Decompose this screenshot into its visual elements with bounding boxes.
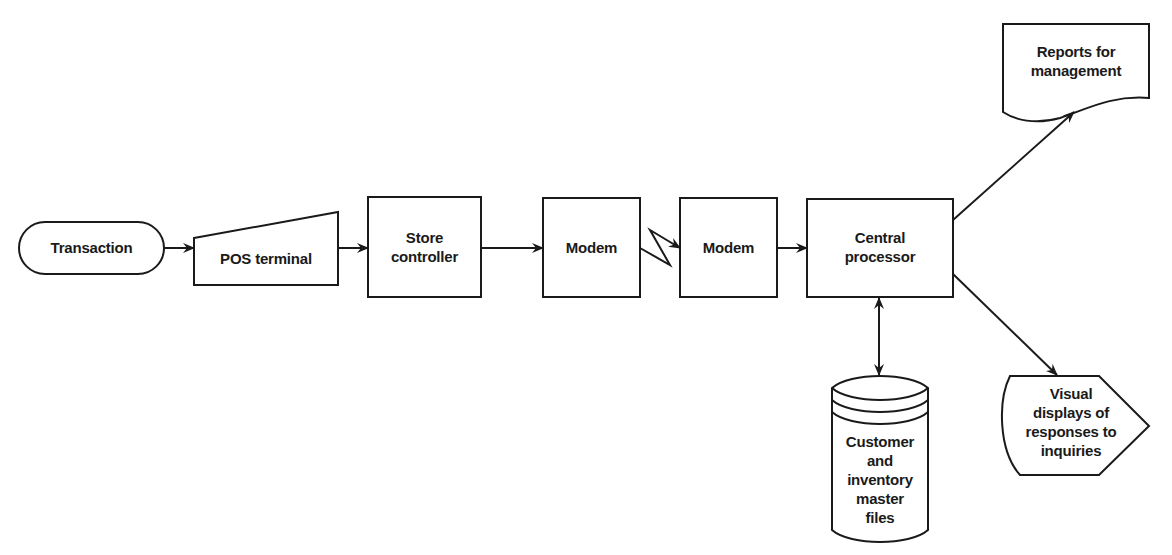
master-files-line-5: files <box>832 508 928 527</box>
visual-displays-line-3: responses to <box>1008 422 1134 441</box>
visual-displays-label: Visual displays of responses to inquirie… <box>1008 384 1134 460</box>
flowchart-canvas <box>0 0 1172 555</box>
store-controller-label: Store controller <box>368 228 481 266</box>
central-processor-label: Central processor <box>807 228 953 266</box>
central-processor-line-2: processor <box>807 247 953 266</box>
edge-central-display <box>953 274 1057 375</box>
transaction-label: Transaction <box>19 238 164 257</box>
visual-displays-line-4: inquiries <box>1008 441 1134 460</box>
reports-line-2: management <box>1003 61 1149 80</box>
master-files-line-3: inventory <box>832 470 928 489</box>
reports-label: Reports for management <box>1003 42 1149 80</box>
edge-central-reports <box>953 112 1074 220</box>
edge-comm-link <box>640 230 680 265</box>
store-controller-line-1: Store <box>368 228 481 247</box>
master-files-label: Customer and inventory master files <box>832 432 928 527</box>
master-files-line-2: and <box>832 451 928 470</box>
reports-line-1: Reports for <box>1003 42 1149 61</box>
modem-1-label: Modem <box>543 238 640 257</box>
master-files-line-1: Customer <box>832 432 928 451</box>
store-controller-line-2: controller <box>368 247 481 266</box>
modem-2-label: Modem <box>680 238 777 257</box>
visual-displays-line-1: Visual <box>1008 384 1134 403</box>
visual-displays-line-2: displays of <box>1008 403 1134 422</box>
master-files-line-4: master <box>832 489 928 508</box>
pos-terminal-label: POS terminal <box>194 249 338 268</box>
central-processor-line-1: Central <box>807 228 953 247</box>
